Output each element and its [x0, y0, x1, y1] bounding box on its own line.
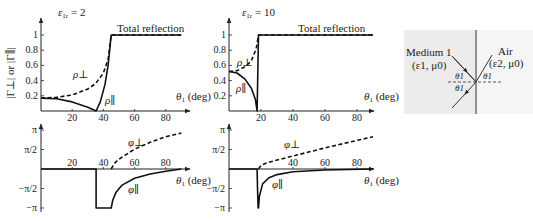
magnitude-plot-er10: 20406080θ1 (deg)0.20.40.60.81ε1r = 10Tot… [214, 6, 400, 123]
medium-params: (ε1, μ0) [412, 59, 447, 72]
angle-reflected-label: θ1 [455, 83, 464, 93]
y-axis-label: |Γ⊥| or |Γ∥| [4, 47, 16, 99]
x-tick-label: 80 [352, 157, 362, 168]
x-tick-label: 80 [352, 112, 362, 123]
series-label: φ⊥ [284, 138, 300, 150]
y-tick-label: π/2 [212, 144, 225, 155]
y-tick-label: 1 [33, 29, 38, 40]
medium-1-region [404, 30, 476, 114]
x-tick-label: 60 [320, 157, 330, 168]
series-label: ρ⊥ [72, 68, 89, 80]
y-tick-label: π/2 [24, 144, 37, 155]
phase-plot-er10: 406080θ1 (deg)ππ/2−π/2−πφ⊥φ∥ [207, 124, 400, 213]
y-tick-label: 0.6 [26, 59, 39, 70]
x-tick-label: 40 [288, 157, 298, 168]
series-label: ρ⊥ [236, 56, 253, 68]
total-reflection-annotation: Total reflection [117, 22, 185, 34]
x-tick-label: 40 [288, 112, 298, 123]
total-reflection-annotation: Total reflection [298, 22, 366, 34]
x-tick-label: 40 [98, 112, 108, 123]
y-tick-label: −π/2 [207, 183, 225, 194]
y-tick-label: −π [26, 202, 37, 213]
x-tick-label: 60 [320, 112, 330, 123]
y-tick-label: 0.4 [26, 75, 39, 86]
inset-diagram: Medium 1 (ε1, μ0) Air (ε2, μ0) θ1 θ1 θ1 [404, 30, 533, 114]
y-tick-label: 0.2 [26, 90, 39, 101]
y-tick-label: −π/2 [19, 183, 37, 194]
angle-incident-label: θ1 [455, 71, 464, 81]
air-params: (ε2, μ0) [489, 57, 524, 70]
angle-transmitted-label: θ1 [483, 71, 492, 81]
y-tick-label: −π [214, 202, 225, 213]
figure: 20406080θ1 (deg)0.20.40.60.81ε1r = 2Tota… [0, 0, 533, 221]
y-tick-label: 1 [221, 29, 226, 40]
x-tick-label: 60 [130, 157, 140, 168]
x-tick-label: 20 [67, 157, 77, 168]
chart-title: ε1r = 10 [242, 6, 275, 20]
series-label: ρ∥ [104, 94, 115, 106]
x-tick-label: 60 [130, 112, 140, 123]
magnitude-plot-er2: 20406080θ1 (deg)0.20.40.60.81ε1r = 2Tota… [4, 6, 211, 123]
y-tick-label: π [32, 124, 37, 135]
series-perpendicular [111, 133, 181, 169]
series-parallel [41, 169, 181, 208]
y-tick-label: 0.8 [214, 44, 227, 55]
x-axis-label: θ1 (deg) [176, 90, 211, 104]
x-axis-label: θ1 (deg) [364, 174, 399, 188]
series-label: φ∥ [128, 183, 139, 195]
phase-plot-er2: 20406080θ1 (deg)ππ/2−π/2−πφ⊥φ∥ [19, 124, 212, 213]
y-tick-label: π [220, 124, 225, 135]
medium-label: Medium 1 [406, 46, 452, 58]
y-tick-label: 0.6 [214, 59, 227, 70]
x-tick-label: 20 [256, 112, 266, 123]
series-label: φ∥ [272, 178, 283, 190]
air-label: Air [498, 45, 513, 57]
y-tick-label: 0.2 [214, 90, 227, 101]
series-label: φ⊥ [128, 136, 144, 148]
x-tick-label: 40 [98, 157, 108, 168]
series-label: ρ∥ [235, 82, 246, 94]
x-tick-label: 80 [161, 157, 171, 168]
chart-title: ε1r = 2 [58, 6, 85, 20]
y-tick-label: 0.4 [214, 75, 227, 86]
x-tick-label: 20 [67, 112, 77, 123]
x-axis-label: θ1 (deg) [364, 90, 399, 104]
series-parallel [229, 169, 373, 208]
series-parallel [229, 35, 373, 111]
series-perpendicular [41, 35, 181, 98]
y-tick-label: 0.8 [26, 44, 39, 55]
x-tick-label: 80 [161, 112, 171, 123]
